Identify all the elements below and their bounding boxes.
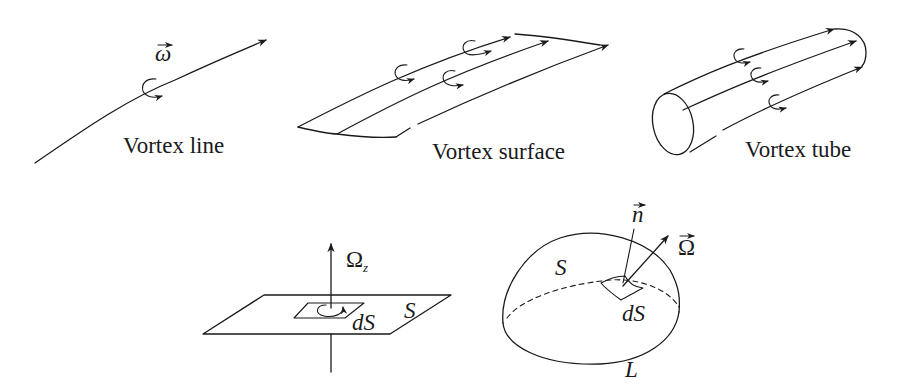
surface-element [601,276,643,300]
rotation-arrow-icon [143,79,162,97]
hidden-edge [507,280,679,318]
element-label-dS: dS [622,301,646,326]
panel-curved-surface-flux: n Ω S dS L [503,202,695,382]
caption-vortex-surface: Vortex surface [432,139,565,164]
normal-label: n [632,202,645,227]
surface-line-2 [337,41,548,134]
rotation-arrow-icon [317,305,343,317]
omega-vector-arrow [623,236,668,286]
rotation-arrow-icon [734,49,750,63]
caption-vortex-tube: Vortex tube [745,137,851,162]
caption-vortex-line: Vortex line [123,133,224,158]
tube-end-cap [647,90,699,159]
surface-label-S: S [404,298,416,323]
panel-vortex-surface: Vortex surface [298,34,608,164]
panel-vortex-tube: Vortex tube [647,29,866,162]
element-label-dS: dS [352,310,376,335]
panel-plane-flux: Ω z S dS [203,244,451,372]
omega-vector-label: ω [155,41,172,66]
omega-z-subscript: z [362,260,368,275]
rotation-arrow-icon [769,95,786,109]
surface-line-3 [418,45,608,124]
surface-label-S: S [555,255,567,280]
surface-line-1 [298,37,510,127]
tube-line-1 [664,29,834,94]
panel-vortex-line: ω Vortex line [35,40,266,163]
dome-surface [503,233,680,323]
svg-text:Ω: Ω [678,235,695,260]
omega-z-label: Ω [346,247,363,272]
svg-text:n: n [632,202,644,227]
rotation-arrow-icon [443,71,463,86]
omega-vector-label: Ω [678,235,695,260]
boundary-curve [503,312,679,364]
boundary-label-L: L [624,357,638,382]
tube-line-3 [723,67,862,130]
vortex-diagram: ω Vortex line Vortex surface [0,0,900,385]
